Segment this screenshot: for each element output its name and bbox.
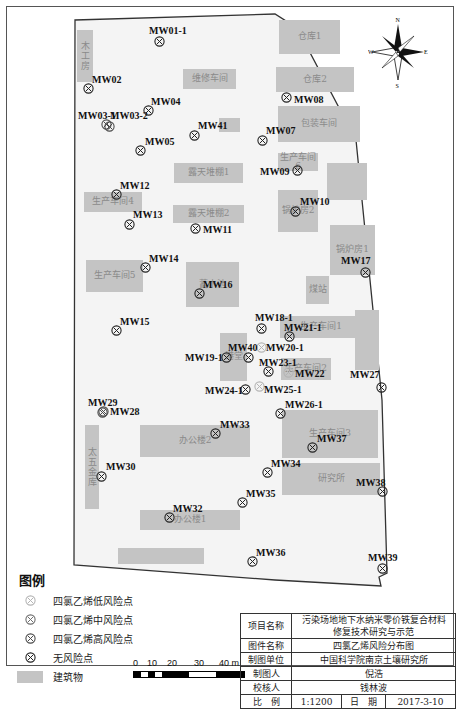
well-label: MW19-1 bbox=[185, 352, 223, 363]
well-label: MW30 bbox=[106, 461, 135, 472]
monitoring-well-high-icon bbox=[97, 407, 108, 418]
svg-text:S: S bbox=[396, 83, 399, 89]
scale-tick-label: 10 bbox=[147, 658, 157, 668]
scale-label: 比 例 bbox=[241, 695, 292, 709]
scale-tick-label: 30 bbox=[194, 658, 204, 668]
scale-tick-label: 20 bbox=[167, 658, 177, 668]
scale-tick-label: 40 m bbox=[219, 658, 239, 668]
well-none-icon bbox=[15, 652, 45, 663]
well-label: MW32 bbox=[173, 503, 202, 514]
well-label: MW23-1 bbox=[259, 357, 297, 368]
svg-text:W: W bbox=[368, 49, 374, 55]
well-label: MW21-1 bbox=[284, 322, 322, 333]
building: 仓库2 bbox=[276, 67, 354, 92]
legend-label: 四氯乙烯低风险点 bbox=[53, 593, 133, 608]
well-label: MW29 bbox=[88, 397, 117, 408]
unit-label: 制图单位 bbox=[241, 653, 292, 667]
unit-value: 中国科学院南京土壤研究所 bbox=[292, 653, 456, 667]
well-high-icon bbox=[15, 633, 45, 644]
author-label: 制图人 bbox=[241, 667, 292, 681]
well-label: MW41 bbox=[198, 120, 227, 131]
legend-item-low: 四氯乙烯低风险点 bbox=[15, 591, 237, 610]
well-label: MW34 bbox=[271, 458, 300, 469]
monitoring-well-none-icon bbox=[256, 323, 267, 334]
legend-label: 无风险点 bbox=[53, 650, 93, 665]
scale-bar-graphic bbox=[133, 671, 245, 678]
building-swatch-icon bbox=[15, 671, 45, 683]
well-label: MW07 bbox=[266, 125, 295, 136]
monitoring-well-none-icon bbox=[96, 471, 107, 482]
well-label: MW12 bbox=[120, 180, 149, 191]
well-label: MW26-1 bbox=[285, 399, 323, 410]
building bbox=[327, 163, 367, 200]
well-label: MW39 bbox=[368, 552, 397, 563]
monitoring-well-none-icon bbox=[376, 382, 387, 393]
monitoring-well-low-icon bbox=[283, 367, 294, 378]
project-value: 污染场地地下水纳米零价铁复合材料 修复技术研究与示范 bbox=[292, 614, 456, 639]
building: 木工房 bbox=[77, 30, 93, 82]
well-label: MW02 bbox=[92, 74, 121, 85]
building: 维修车间 bbox=[183, 69, 236, 89]
legend-item-medium: 四氯乙烯中风险点 bbox=[15, 610, 237, 629]
well-label: MW04 bbox=[151, 96, 180, 107]
well-label: MW11 bbox=[203, 224, 232, 235]
well-label: MW35 bbox=[246, 488, 275, 499]
building bbox=[355, 310, 379, 370]
monitoring-well-none-icon bbox=[377, 563, 388, 574]
building: 露天堆棚2 bbox=[173, 205, 244, 223]
title-block: 项目名称 污染场地地下水纳米零价铁复合材料 修复技术研究与示范 图件名称 四氯乙… bbox=[240, 613, 456, 709]
well-label: MW09 bbox=[260, 166, 289, 177]
well-label: MW16 bbox=[203, 279, 232, 290]
building bbox=[118, 548, 204, 564]
monitoring-well-none-icon bbox=[189, 130, 200, 141]
building: 仓库1 bbox=[279, 20, 340, 54]
well-label: MW38 bbox=[356, 477, 385, 488]
monitoring-well-none-icon bbox=[243, 352, 254, 363]
well-label: MW17 bbox=[341, 255, 370, 266]
legend-label: 建筑物 bbox=[53, 669, 83, 684]
legend-item-high: 四氯乙烯高风险点 bbox=[15, 629, 237, 648]
building: 包装车间 bbox=[278, 106, 360, 142]
well-label: MW01-1 bbox=[149, 25, 187, 36]
north-arrow: N S W E bbox=[368, 14, 428, 90]
well-low-icon bbox=[15, 595, 45, 606]
monitoring-well-none-icon bbox=[257, 135, 268, 146]
well-medium-icon bbox=[15, 614, 45, 625]
well-label: MW15 bbox=[120, 316, 149, 327]
legend-label: 四氯乙烯高风险点 bbox=[53, 631, 133, 646]
well-label: MW22 bbox=[295, 368, 324, 379]
figure-label: 图件名称 bbox=[241, 639, 292, 653]
well-label: MW36 bbox=[256, 547, 285, 558]
monitoring-well-none-icon bbox=[360, 267, 371, 278]
building: 露天堆棚1 bbox=[174, 163, 243, 183]
figure-value: 四氯乙烯风险分布图 bbox=[292, 639, 456, 653]
well-label: MW05 bbox=[145, 136, 174, 147]
well-label: MW10 bbox=[300, 196, 329, 207]
monitoring-well-none-icon bbox=[190, 223, 201, 234]
monitoring-well-none-icon bbox=[124, 219, 135, 230]
well-label: MW27 bbox=[350, 369, 379, 380]
compass-rose-icon: N S W E bbox=[368, 14, 428, 90]
monitoring-well-none-icon bbox=[154, 36, 165, 47]
well-label: MW40 bbox=[228, 342, 257, 353]
author-value: 倪浩 bbox=[292, 667, 456, 681]
project-label: 项目名称 bbox=[241, 614, 292, 639]
svg-text:N: N bbox=[396, 17, 401, 23]
monitoring-well-none-icon bbox=[281, 92, 292, 103]
well-label: MW37 bbox=[317, 433, 346, 444]
well-label: MW14 bbox=[149, 253, 178, 264]
date-value: 2017-3-10 bbox=[385, 695, 455, 709]
date-label: 日 期 bbox=[342, 695, 386, 709]
monitoring-well-none-icon bbox=[290, 206, 301, 217]
scale-tick-label: 0 bbox=[133, 658, 138, 668]
legend-title: 图例 bbox=[19, 570, 237, 589]
building: 生产车间5 bbox=[86, 260, 143, 292]
legend-label: 四氯乙烯中风险点 bbox=[53, 612, 133, 627]
building: 煤站 bbox=[306, 276, 329, 304]
building: 太五金库 bbox=[85, 425, 99, 509]
well-label: MW13 bbox=[133, 209, 162, 220]
well-label: MW25-1 bbox=[264, 384, 302, 395]
checker-label: 校核人 bbox=[241, 681, 292, 695]
checker-value: 钱林波 bbox=[292, 681, 456, 695]
svg-text:E: E bbox=[424, 49, 428, 55]
